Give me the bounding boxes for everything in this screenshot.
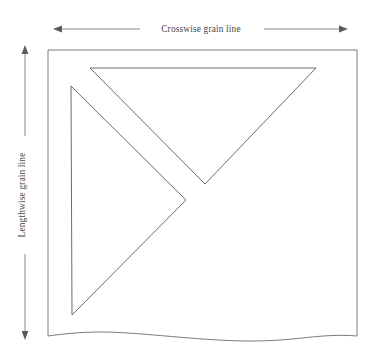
lengthwise-arrow-head-top — [22, 45, 29, 54]
fabric-yardage — [48, 50, 357, 341]
lengthwise-grain-arrow: Lengthwise grain line — [17, 45, 28, 340]
crosswise-grain-label: Crosswise grain line — [161, 24, 241, 34]
crosswise-arrow-head-left — [53, 26, 62, 33]
fabric-layout-figure: Crosswise grain line Lengthwise grain li… — [0, 0, 379, 359]
lengthwise-grain-label: Lengthwise grain line — [17, 153, 27, 238]
lengthwise-arrow-head-bottom — [22, 331, 29, 340]
crosswise-arrow-head-right — [339, 26, 348, 33]
grain-line-diagram: Crosswise grain line Lengthwise grain li… — [0, 0, 379, 359]
crosswise-grain-arrow: Crosswise grain line — [53, 24, 348, 34]
